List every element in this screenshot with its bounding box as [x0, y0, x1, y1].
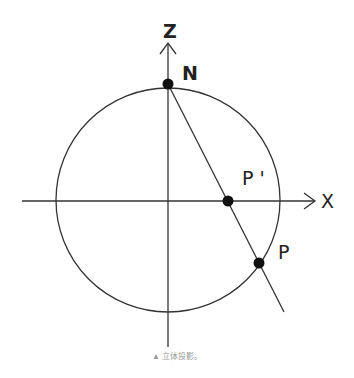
point-p-label: P: [278, 243, 289, 262]
point-p-prime: [223, 196, 234, 207]
point-n-label: N: [182, 64, 198, 83]
point-n: [163, 79, 174, 90]
projection-diagram: [0, 0, 354, 378]
point-p: [254, 258, 265, 269]
x-axis-label: X: [321, 192, 334, 211]
figure-caption: ▲ 立体投影。: [0, 350, 354, 361]
z-axis-label: Z: [163, 22, 177, 41]
point-p-prime-label: P ': [242, 169, 265, 188]
